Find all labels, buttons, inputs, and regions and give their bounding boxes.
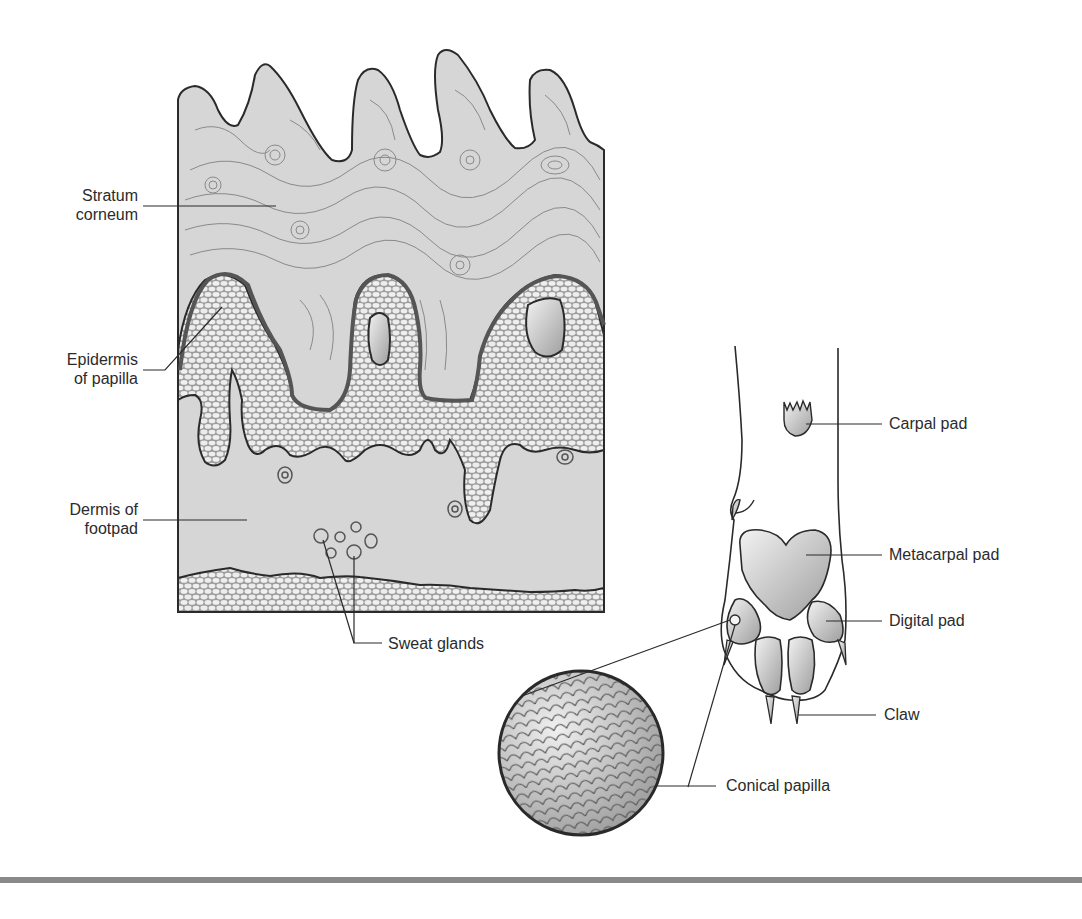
carpal-pad bbox=[784, 401, 812, 436]
label-epidermis-of-papilla: Epidermis of papilla bbox=[40, 350, 138, 388]
claw bbox=[766, 696, 774, 724]
limb-outline bbox=[721, 346, 846, 700]
label-line: Stratum bbox=[40, 186, 138, 205]
label-sweat-glands: Sweat glands bbox=[388, 634, 484, 653]
footpad-anatomy-figure bbox=[0, 0, 1082, 919]
label-line: Epidermis bbox=[40, 350, 138, 369]
label-stratum-corneum: Stratum corneum bbox=[40, 186, 138, 224]
papilla-marker bbox=[730, 615, 740, 625]
label-conical-papilla: Conical papilla bbox=[726, 776, 830, 795]
claw bbox=[792, 696, 800, 724]
label-metacarpal-pad: Metacarpal pad bbox=[889, 545, 999, 564]
label-dermis-of-footpad: Dermis of footpad bbox=[40, 500, 138, 538]
paw-drawing bbox=[721, 346, 846, 724]
papilla-core bbox=[526, 298, 564, 356]
papilla-core bbox=[368, 313, 390, 365]
label-claw: Claw bbox=[884, 705, 920, 724]
label-digital-pad: Digital pad bbox=[889, 611, 965, 630]
label-carpal-pad: Carpal pad bbox=[889, 414, 967, 433]
caption-divider bbox=[0, 877, 1082, 883]
label-line: footpad bbox=[40, 519, 138, 538]
label-line: corneum bbox=[40, 205, 138, 224]
label-line: Dermis of bbox=[40, 500, 138, 519]
digital-pad-center-right bbox=[788, 637, 815, 694]
skin-cross-section bbox=[178, 50, 604, 612]
label-line: of papilla bbox=[40, 369, 138, 388]
